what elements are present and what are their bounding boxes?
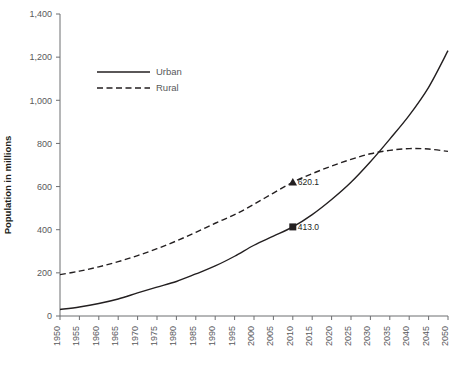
x-tick-label: 1950 xyxy=(52,326,62,346)
x-tick-label: 2040 xyxy=(401,326,411,346)
x-tick-label: 2005 xyxy=(265,326,275,346)
x-tick-label: 1965 xyxy=(110,326,120,346)
x-tick-label: 1985 xyxy=(188,326,198,346)
x-tick-label: 2035 xyxy=(382,326,392,346)
x-axis-tick-labels: 1950195519601965197019751980198519901995… xyxy=(52,326,450,346)
x-tick-label: 2030 xyxy=(362,326,372,346)
y-tick-label: 1,200 xyxy=(29,52,52,62)
y-tick-label: 800 xyxy=(37,139,52,149)
x-axis-ticks xyxy=(60,316,448,320)
legend-label-rural: Rural xyxy=(156,82,179,93)
chart-background xyxy=(0,0,468,365)
data-point-label: 620.1 xyxy=(298,177,320,187)
y-tick-label: 0 xyxy=(47,311,52,321)
x-tick-label: 1970 xyxy=(130,326,140,346)
chart-container: 02004006008001,0001,2001,400 19501955196… xyxy=(0,0,468,365)
x-tick-label: 1955 xyxy=(71,326,81,346)
legend-label-urban: Urban xyxy=(156,66,182,77)
x-tick-label: 1980 xyxy=(168,326,178,346)
data-point-label: 413.0 xyxy=(298,222,320,232)
y-tick-label: 600 xyxy=(37,182,52,192)
x-tick-label: 2045 xyxy=(421,326,431,346)
y-tick-label: 200 xyxy=(37,268,52,278)
y-tick-label: 400 xyxy=(37,225,52,235)
x-tick-label: 2000 xyxy=(246,326,256,346)
x-tick-label: 2025 xyxy=(343,326,353,346)
x-tick-label: 1960 xyxy=(91,326,101,346)
population-line-chart: 02004006008001,0001,2001,400 19501955196… xyxy=(0,0,468,365)
x-tick-label: 1990 xyxy=(207,326,217,346)
x-tick-label: 2015 xyxy=(304,326,314,346)
y-axis-title: Population in millions xyxy=(2,136,13,235)
x-tick-label: 2020 xyxy=(324,326,334,346)
x-tick-label: 1975 xyxy=(149,326,159,346)
x-tick-label: 2010 xyxy=(285,326,295,346)
marker-square xyxy=(289,223,296,230)
y-tick-label: 1,000 xyxy=(29,96,52,106)
x-tick-label: 1995 xyxy=(227,326,237,346)
y-tick-label: 1,400 xyxy=(29,9,52,19)
x-tick-label: 2050 xyxy=(440,326,450,346)
